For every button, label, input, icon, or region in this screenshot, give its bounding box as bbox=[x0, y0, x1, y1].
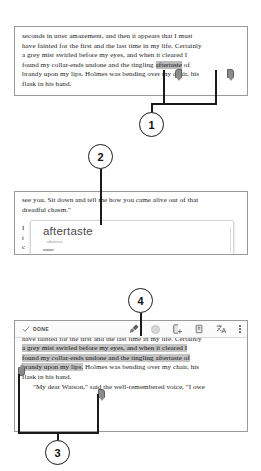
obscured-fragment: c bbox=[22, 243, 25, 253]
highlighted-line[interactable]: found my collar-ends undone and the ting… bbox=[22, 354, 190, 362]
reader-line-tail: Holmes was bending over my chair, his bbox=[83, 363, 199, 371]
reader-line: have fainted for the first and the last … bbox=[22, 42, 240, 52]
dot bbox=[239, 331, 241, 333]
translate-icon[interactable] bbox=[216, 324, 227, 334]
reader-line: "My dear Watson," said the well-remember… bbox=[22, 383, 240, 393]
reader-line: a grey mist swirled before my eyes, and … bbox=[22, 51, 240, 61]
callout-3: 3 bbox=[45, 440, 70, 465]
reader-line: brandy upon my lips. Holmes was bending … bbox=[22, 70, 240, 80]
highlighter-icon[interactable] bbox=[129, 324, 139, 334]
reader-line: dreadful chasm." bbox=[22, 206, 240, 216]
dictionary-scrollbar[interactable] bbox=[230, 227, 232, 253]
callout-1: 1 bbox=[139, 112, 164, 137]
reader-line-text: "My dear Watson," said the well-remember… bbox=[33, 383, 205, 391]
done-label: DONE bbox=[33, 326, 49, 332]
dictionary-definition: 1. a taste remaining in the mouth after … bbox=[43, 254, 181, 255]
reader-line: a grey mist swirled before my eyes, and … bbox=[22, 344, 240, 354]
dictionary-part-of-speech: noun bbox=[43, 247, 54, 252]
dot bbox=[239, 328, 241, 330]
reader-line-tail: of bbox=[182, 61, 190, 69]
callout-3-leader-right bbox=[97, 394, 99, 433]
selection-start-handle[interactable] bbox=[175, 69, 182, 78]
callout-1-leader-left bbox=[163, 70, 165, 104]
callout-1-label: 1 bbox=[148, 119, 154, 131]
reader-line: seconds in utter amazement, and then it … bbox=[22, 32, 240, 42]
dot bbox=[239, 325, 241, 327]
obscured-fragment: I bbox=[22, 224, 25, 234]
reader-line: see you. Sit down and tell me how you ca… bbox=[22, 196, 240, 206]
obscured-fragment: t bbox=[22, 234, 25, 244]
reader-line: found my collar-ends undone and the ting… bbox=[22, 61, 240, 71]
selected-word[interactable]: aftertaste bbox=[156, 61, 183, 69]
callout-2: 2 bbox=[88, 144, 113, 169]
callout-1-leader-right bbox=[215, 70, 217, 104]
toolbar-icon-group bbox=[129, 324, 248, 334]
highlighted-line[interactable]: brandy upon my lips. bbox=[22, 363, 83, 371]
reader-line: brandy upon my lips. Holmes was bending … bbox=[22, 363, 240, 373]
panel-highlight-toolbar: DONE bbox=[14, 320, 248, 432]
check-icon bbox=[22, 325, 30, 333]
selection-toolbar: DONE bbox=[15, 321, 248, 338]
selection-end-handle[interactable] bbox=[98, 389, 105, 398]
reader-paragraph-middle: see you. Sit down and tell me how you ca… bbox=[15, 192, 247, 215]
obscured-text-fragments: I t c bbox=[22, 224, 25, 253]
color-swatch-icon[interactable] bbox=[151, 325, 160, 334]
callout-2-leader bbox=[100, 169, 102, 225]
reader-paragraph-top: seconds in utter amazement, and then it … bbox=[15, 27, 247, 90]
overflow-menu-icon[interactable] bbox=[239, 325, 241, 332]
reader-line-text: found my collar-ends undone and the ting… bbox=[22, 61, 156, 69]
add-note-icon[interactable] bbox=[172, 324, 182, 334]
callout-4-label: 4 bbox=[137, 295, 143, 307]
highlighted-line[interactable]: a grey mist swirled before my eyes, and … bbox=[22, 344, 187, 352]
callout-4: 4 bbox=[128, 288, 153, 313]
callout-1-leader-bridge bbox=[151, 103, 165, 105]
callout-3-label: 3 bbox=[54, 447, 60, 459]
panel-dictionary-lookup: see you. Sit down and tell me how you ca… bbox=[14, 191, 248, 255]
panel-text-selection: seconds in utter amazement, and then it … bbox=[14, 26, 248, 96]
dictionary-pronunciation: ˈaftəteɪst bbox=[45, 239, 62, 244]
reader-line: flask in his hand. bbox=[22, 80, 240, 90]
callout-1-leader-horizontal bbox=[163, 103, 217, 105]
reader-line: flask in his hand. bbox=[22, 373, 240, 383]
done-button[interactable]: DONE bbox=[22, 325, 49, 333]
selection-end-handle[interactable] bbox=[227, 69, 234, 78]
dictionary-word: aftertaste bbox=[43, 225, 93, 237]
reader-line: found my collar-ends undone and the ting… bbox=[22, 354, 240, 364]
callout-4-leader bbox=[140, 313, 142, 336]
callout-2-label: 2 bbox=[97, 151, 103, 163]
callout-3-leader-left bbox=[18, 374, 20, 433]
figure-root: seconds in utter amazement, and then it … bbox=[0, 0, 261, 471]
dictionary-card[interactable]: aftertaste ˈaftəteɪst noun 1. a taste re… bbox=[30, 220, 234, 255]
copy-icon[interactable] bbox=[194, 324, 204, 334]
